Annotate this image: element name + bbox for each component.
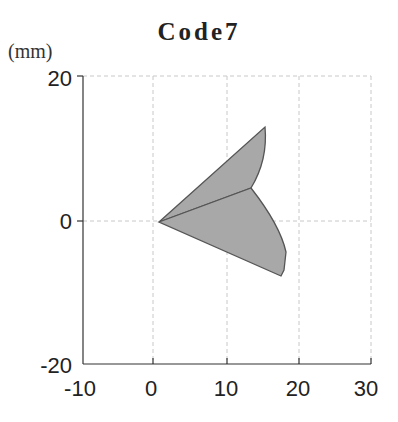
x-tick-0: 0 [145, 376, 157, 401]
x-tick-30: 30 [354, 376, 378, 401]
y-tick-0: 0 [60, 209, 72, 234]
y-tick-neg20: -20 [40, 353, 72, 378]
x-tick-10: 10 [214, 376, 238, 401]
chart-plot: 20 0 -20 -10 0 10 20 30 [0, 0, 398, 422]
data-polygon [159, 127, 286, 276]
x-tick-neg10: -10 [64, 376, 96, 401]
y-tick-20: 20 [48, 66, 72, 91]
x-tick-20: 20 [286, 376, 310, 401]
